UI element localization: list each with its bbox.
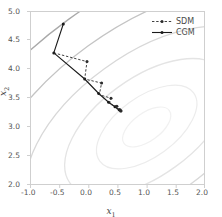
x-axis-label: x1: [106, 206, 115, 216]
x-tick-label: 1.5: [167, 188, 179, 197]
x-tick-label: -0.5: [50, 188, 65, 197]
legend-label-cgm: CGM: [176, 28, 195, 37]
x-tick-label: 1.0: [138, 188, 150, 197]
sdm-point: [115, 105, 118, 108]
y-tick-label: 4.0: [8, 64, 20, 73]
y-axis-label-sub: 2: [3, 87, 11, 91]
legend-label-sdm: SDM: [176, 17, 194, 26]
y-tick-label: 5.0: [8, 7, 20, 16]
x-tick-label: -1.0: [21, 188, 36, 197]
x-axis-label-wrap: x1: [0, 199, 222, 217]
figure: 5.0 4.5 4.0 3.5 3.0 2.5 2.0 -1.0 -0.5 0.…: [0, 0, 222, 217]
y-tick-label: 3.0: [8, 122, 20, 131]
sdm-point: [110, 97, 113, 100]
sdm-point: [100, 82, 103, 85]
x-axis-label-sub: 1: [111, 211, 115, 217]
y-axis-label-base: x: [0, 91, 8, 96]
y-tick-label: 2.5: [8, 151, 20, 160]
x-tick-label: 0.5: [109, 188, 121, 197]
y-tick-label: 2.0: [8, 180, 20, 189]
x-tick-label: 2.0: [196, 188, 208, 197]
x-tick-label: 0.0: [80, 188, 92, 197]
y-ticks: [27, 12, 30, 185]
legend-sdm-marker: [161, 20, 164, 23]
plot-background: [30, 11, 205, 185]
sdm-point: [120, 110, 123, 113]
legend-cgm-marker: [161, 31, 164, 34]
y-axis-label-wrap: x2: [0, 96, 22, 120]
sdm-point: [86, 60, 89, 63]
y-tick-label: 4.5: [8, 35, 20, 44]
y-axis-label: x2: [0, 87, 11, 96]
cgm-point: [62, 23, 65, 26]
